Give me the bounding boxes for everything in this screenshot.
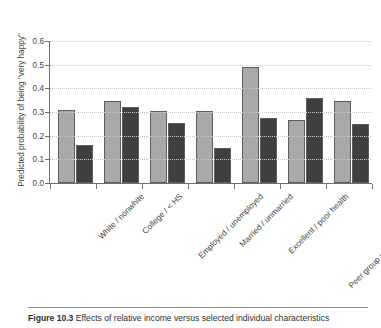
- x-axis-tick-mark: [234, 184, 235, 189]
- figure-caption-text: Effects of relative income versus select…: [76, 313, 329, 323]
- gridline: [50, 65, 372, 66]
- x-axis-tick-label: Excellent / poor health: [286, 192, 350, 256]
- x-axis-tick-label: Peer group income 95 / 5 percentile: [347, 192, 381, 290]
- x-axis-tick-mark: [326, 184, 327, 189]
- x-axis-tick-mark: [372, 184, 373, 189]
- gridline: [50, 88, 372, 89]
- x-axis-tick-label: Married / unmarried: [237, 192, 294, 249]
- figure-number: Figure 10.3: [28, 313, 73, 323]
- x-axis-tick-label: White / nonwhite: [96, 192, 145, 241]
- x-axis-tick-label: College / < HS: [140, 192, 184, 236]
- x-axis-tick-labels: White / nonwhiteCollege / < HSEmployed /…: [0, 0, 381, 300]
- figure-caption: Figure 10.3 Effects of relative income v…: [28, 313, 376, 324]
- bar-chart: Predicted probability of being "very hap…: [0, 0, 381, 300]
- x-axis-tick-mark: [188, 184, 189, 189]
- gridline: [50, 112, 372, 113]
- x-axis-tick-mark: [50, 184, 51, 189]
- x-axis-tick-mark: [96, 184, 97, 189]
- caption-divider: [28, 307, 368, 308]
- x-axis-tick-mark: [280, 184, 281, 189]
- gridline: [50, 136, 372, 137]
- gridline: [50, 159, 372, 160]
- x-axis-tick-mark: [142, 184, 143, 189]
- gridline: [50, 41, 372, 42]
- figure-container: Predicted probability of being "very hap…: [0, 0, 381, 328]
